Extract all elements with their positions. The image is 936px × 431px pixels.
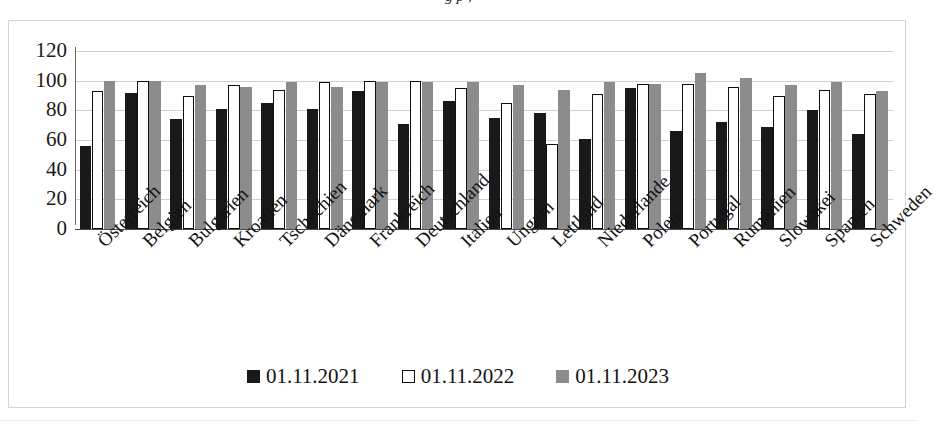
y-tick-label: 40 <box>21 159 67 180</box>
y-tick-label: 0 <box>21 218 67 239</box>
y-tick-label: 60 <box>21 129 67 150</box>
legend-item[interactable]: 01.11.2023 <box>556 366 669 387</box>
x-axis-category-labels: ÖsterreichBelgienBulgarienKroatienTschec… <box>75 21 893 409</box>
y-tick-label: 20 <box>21 188 67 209</box>
filled-gray-square-icon <box>556 370 569 383</box>
chart-container: 020406080100120 ÖsterreichBelgienBulgari… <box>8 20 906 408</box>
y-tick-label: 80 <box>21 99 67 120</box>
legend-label: 01.11.2023 <box>575 366 669 387</box>
x-tick-label: Ungarn <box>503 197 557 251</box>
y-axis: 020406080100120 <box>11 21 67 409</box>
x-tick-label: Lettland <box>548 192 606 250</box>
outlined-white-square-icon <box>402 370 415 383</box>
plot-area: 020406080100120 ÖsterreichBelgienBulgari… <box>9 21 907 409</box>
legend-label: 01.11.2022 <box>421 366 515 387</box>
chart-legend: 01.11.202101.11.202201.11.2023 <box>9 366 907 387</box>
y-tick-label: 120 <box>21 40 67 61</box>
legend-label: 01.11.2021 <box>266 366 360 387</box>
y-tick-label: 100 <box>21 70 67 91</box>
legend-item[interactable]: 01.11.2021 <box>247 366 360 387</box>
page-edge-line <box>0 420 917 421</box>
legend-item[interactable]: 01.11.2022 <box>402 366 515 387</box>
filled-black-square-icon <box>247 370 260 383</box>
x-tick-label: Schweden <box>866 182 935 251</box>
